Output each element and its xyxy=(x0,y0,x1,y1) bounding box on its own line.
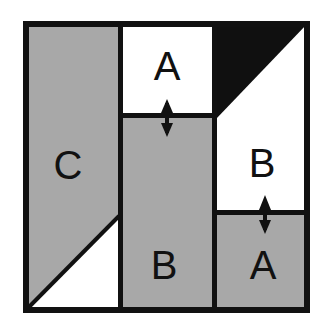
label-a-bottom-right: A xyxy=(250,243,277,287)
label-b-middle: B xyxy=(151,243,178,287)
label-c-left: C xyxy=(54,143,83,187)
label-b-right: B xyxy=(249,141,276,185)
dissection-square-diagram: A C B B A xyxy=(0,0,320,322)
figure-container: A C B B A xyxy=(0,0,320,322)
label-a-top-middle: A xyxy=(154,44,181,88)
